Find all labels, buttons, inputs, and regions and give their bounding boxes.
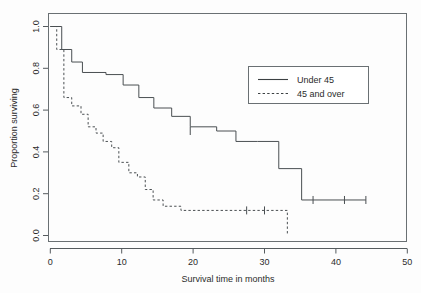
y-ticklabel-0.6: 0.6 [31,104,41,117]
x-ticklabel-0: 0 [48,257,53,267]
legend-label-under-45: Under 45 [297,75,334,85]
figure-background [0,0,421,293]
x-ticklabel-40: 40 [331,257,341,267]
x-ticklabel-50: 50 [402,257,412,267]
kaplan-meier-plot: 1.0 0.8 0.6 0.4 0.2 0.0 Proportion survi… [0,0,421,293]
y-ticklabel-0.8: 0.8 [31,62,41,75]
y-ticklabel-1.0: 1.0 [31,20,41,33]
y-ticklabel-0.0: 0.0 [31,229,41,242]
x-ticklabel-10: 10 [117,257,127,267]
y-ticklabel-0.4: 0.4 [31,146,41,159]
survival-curve-figure: 1.0 0.8 0.6 0.4 0.2 0.0 Proportion survi… [0,0,421,293]
x-axis-label: Survival time in months [181,274,275,284]
x-ticklabel-30: 30 [259,257,269,267]
x-ticklabel-20: 20 [188,257,198,267]
y-ticklabel-0.2: 0.2 [31,187,41,200]
y-axis-label: Proportion surviving [9,88,19,168]
legend: Under 45 45 and over [249,67,369,104]
legend-label-45-and-over: 45 and over [297,89,345,99]
